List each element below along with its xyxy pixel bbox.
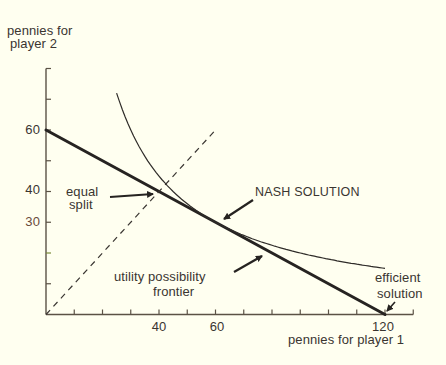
- nash-bargaining-chart: pennies for player 2 pennies for player …: [0, 0, 446, 365]
- equal-split-label-line2: split: [69, 198, 93, 212]
- frontier-label-line2: frontier: [153, 285, 194, 299]
- x-axis-title: pennies for player 1: [288, 333, 404, 347]
- efficient-solution-arrow: [387, 302, 395, 311]
- plot-area: [0, 0, 446, 365]
- efficient-solution-label-line1: efficient: [375, 271, 420, 285]
- equal-split-arrow: [110, 194, 153, 197]
- nash-solution-label: NASH SOLUTION: [255, 185, 360, 199]
- frontier-arrow: [234, 256, 262, 272]
- y-tick-label-40: 40: [10, 183, 40, 197]
- x-tick-label-40: 40: [139, 320, 179, 334]
- nash-solution-arrow: [224, 200, 253, 219]
- x-tick-label-60: 60: [197, 320, 237, 334]
- frontier-label-line1: utility possibility: [114, 270, 205, 284]
- series-group: [46, 93, 385, 314]
- y-axis-title-line2: player 2: [10, 37, 57, 51]
- x-tick-label-120: 120: [363, 320, 403, 334]
- y-tick-label-30: 30: [10, 215, 40, 229]
- y-tick-label-60: 60: [10, 123, 40, 137]
- efficient-solution-label-line2: solution: [377, 287, 423, 301]
